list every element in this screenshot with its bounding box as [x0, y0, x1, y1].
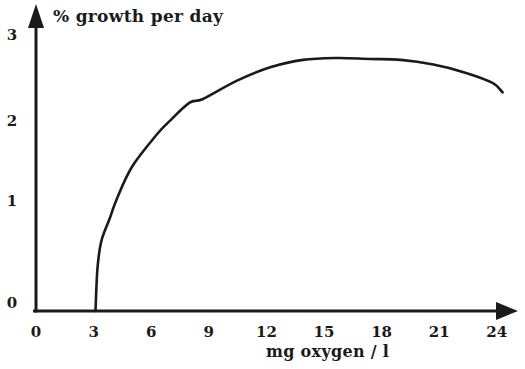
growth-curve [96, 58, 503, 311]
x-tick-label-18: 18 [371, 323, 392, 341]
x-tick-label-9: 9 [204, 323, 214, 341]
x-tick-label-21: 21 [429, 323, 450, 341]
y-tick-label-2: 2 [7, 112, 17, 130]
x-tick-label-15: 15 [314, 323, 335, 341]
x-tick-label-3: 3 [88, 323, 98, 341]
y-axis-arrowhead-icon [28, 4, 44, 28]
x-tick-label-0: 0 [31, 323, 41, 341]
chart-canvas: 036912151821240123 [0, 0, 525, 369]
x-tick-label-24: 24 [486, 323, 507, 341]
x-axis-arrowhead-icon [496, 302, 518, 320]
x-tick-label-6: 6 [146, 323, 156, 341]
y-tick-label-0: 0 [7, 294, 17, 312]
x-axis-title: mg oxygen / l [266, 342, 389, 361]
x-tick-label-12: 12 [256, 323, 277, 341]
y-tick-label-1: 1 [7, 192, 17, 210]
y-tick-label-3: 3 [7, 26, 17, 44]
y-axis-title: % growth per day [53, 6, 223, 26]
growth-oxygen-figure: 036912151821240123 % growth per day mg o… [0, 0, 525, 369]
